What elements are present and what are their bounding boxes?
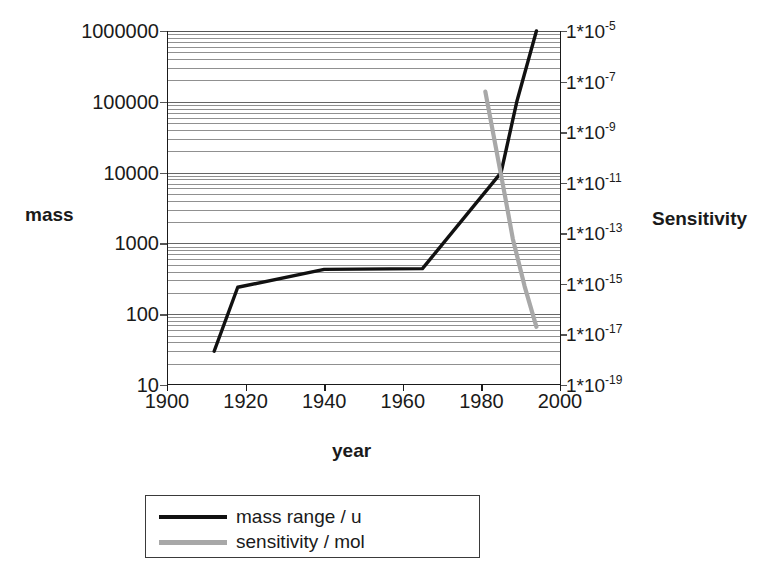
right-tick-label: 1*10-15 <box>566 272 622 295</box>
right-tick-exponent: -17 <box>605 323 622 337</box>
legend-item: mass range / u <box>159 506 362 528</box>
left-tick-label: 100000 <box>92 90 159 113</box>
right-tick-label: 1*10-5 <box>566 19 616 42</box>
right-axis-spine <box>560 31 561 386</box>
legend-label: mass range / u <box>236 506 362 528</box>
right-tick-mantissa: 1*10 <box>566 274 605 295</box>
right-tick-mantissa: 1*10 <box>566 223 605 244</box>
left-tick-mark <box>160 31 167 32</box>
right-tick-label: 1*10-9 <box>566 120 616 143</box>
series-line-1 <box>214 31 536 351</box>
legend-item: sensitivity / mol <box>159 531 365 553</box>
left-tick-mark <box>160 314 167 315</box>
left-tick-label: 10000 <box>103 161 159 184</box>
x-axis-title: year <box>332 440 371 462</box>
right-tick-exponent: -11 <box>605 171 621 185</box>
left-tick-mark <box>160 102 167 103</box>
right-tick-mantissa: 1*10 <box>566 324 605 345</box>
x-tick-label: 1920 <box>223 390 268 413</box>
legend-swatch <box>159 540 227 545</box>
legend-swatch <box>159 515 227 519</box>
x-tick-label: 1900 <box>145 390 190 413</box>
right-tick-exponent: -5 <box>605 19 616 33</box>
left-tick-mark <box>160 243 167 244</box>
x-axis-labels: 190019201940196019802000 <box>167 390 560 420</box>
left-tick-label: 1000000 <box>81 20 159 43</box>
legend-label: sensitivity / mol <box>236 531 365 553</box>
x-tick-label: 1960 <box>381 390 426 413</box>
left-tick-mark <box>160 173 167 174</box>
right-tick-exponent: -15 <box>605 272 622 286</box>
right-tick-mantissa: 1*10 <box>566 21 605 42</box>
left-tick-label: 1000 <box>115 232 160 255</box>
chart-container: 101001000100001000001000000 1*10-191*10-… <box>0 0 782 584</box>
right-tick-label: 1*10-17 <box>566 323 622 346</box>
left-tick-mark <box>160 385 167 386</box>
chart-legend: mass range / usensitivity / mol <box>145 495 480 558</box>
right-tick-exponent: -9 <box>605 120 616 134</box>
left-axis-title: mass <box>25 204 74 226</box>
right-tick-exponent: -7 <box>605 70 616 84</box>
right-tick-label: 1*10-11 <box>566 171 622 194</box>
left-axis-labels: 101001000100001000001000000 <box>0 31 159 385</box>
right-tick-exponent: -13 <box>605 222 622 236</box>
right-tick-mantissa: 1*10 <box>566 71 605 92</box>
x-tick-label: 2000 <box>538 390 583 413</box>
right-tick-label: 1*10-7 <box>566 70 616 93</box>
x-tick-label: 1940 <box>302 390 347 413</box>
right-axis-title: Sensitivity <box>652 208 747 230</box>
x-tick-label: 1980 <box>459 390 504 413</box>
right-tick-label: 1*10-13 <box>566 222 622 245</box>
right-tick-mantissa: 1*10 <box>566 122 605 143</box>
series-lines <box>167 31 560 385</box>
right-tick-mantissa: 1*10 <box>566 172 605 193</box>
right-tick-exponent: -19 <box>605 373 622 387</box>
plot-area <box>167 31 560 385</box>
left-tick-label: 100 <box>126 303 159 326</box>
